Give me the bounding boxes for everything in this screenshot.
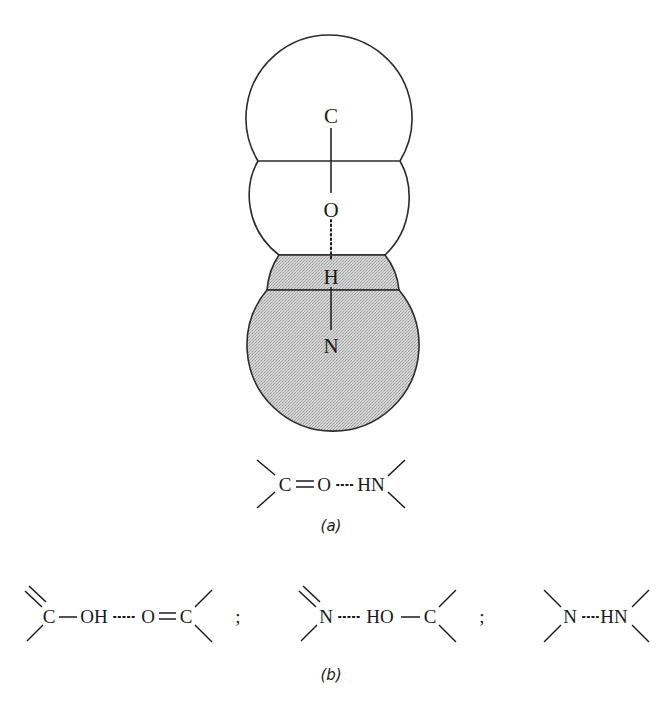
formula-b2-n: N [319,606,333,627]
bond-line [388,492,405,508]
bond-line [301,625,317,641]
bond-line [257,460,275,475]
carbon-sphere [246,35,412,161]
formula-b3-n: N [563,606,577,627]
formula-b1-o: O [141,606,155,627]
atom-n: N [323,334,338,358]
separator-2: ; [479,606,484,627]
formula-b-3: N HN [544,590,649,642]
bond-line [544,590,561,607]
formula-b2-ho: HO [366,606,393,627]
formula-b1-c-left: C [43,606,56,627]
caption-b: (b) [320,666,341,684]
hydrogen-bond-diagram: C O H N C O HN (a) C OH O C ; [0,0,662,703]
bond-line [195,625,212,642]
formula-a-o: O [317,474,331,495]
formula-b2-c: C [424,606,437,627]
atom-h: H [323,265,338,289]
bond-line [388,460,405,476]
bond-line [439,590,456,607]
atom-o: O [323,198,338,222]
formula-b-2: N HO C [299,586,456,642]
bond-line [257,492,275,508]
bond-line [632,590,649,607]
formula-b3-hn: HN [600,606,628,627]
bond-line [439,625,456,642]
nitrogen-sphere [247,290,419,431]
atom-c: C [324,104,338,128]
formula-a: C O HN [257,460,405,508]
caption-a: (a) [321,517,342,535]
bond-line [544,625,561,642]
formula-a-hn: HN [357,474,385,495]
formula-a-c: C [279,474,292,495]
double-bond-line [299,591,316,607]
formula-b1-oh: OH [80,606,108,627]
formula-b1-c-right: C [180,606,193,627]
double-bond-line [25,591,42,607]
bond-line [27,625,43,641]
bond-line [195,590,212,607]
formula-b-1: C OH O C [25,586,212,642]
separator-1: ; [235,606,240,627]
space-filling-model: C O H N [246,35,419,431]
double-bond-line [29,586,46,602]
double-bond-line [303,586,320,602]
bond-line [632,625,649,642]
